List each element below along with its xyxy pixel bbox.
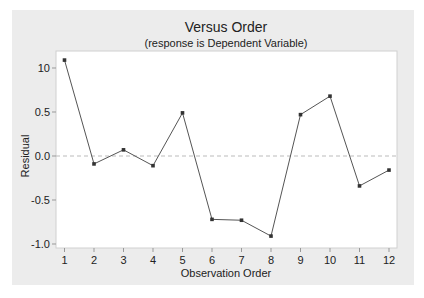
x-axis-ticks: 123456789101112 [61, 248, 395, 266]
data-point-marker [387, 168, 391, 172]
y-axis-label: Residual [19, 135, 31, 178]
data-point-marker [92, 162, 96, 166]
x-tick-label: 11 [354, 254, 365, 266]
y-tick-label: -0.5 [31, 194, 50, 206]
residual-vs-order-chart: Versus Order (response is Dependent Vari… [0, 0, 424, 298]
x-tick-label: 12 [383, 254, 395, 266]
x-axis-label: Observation Order [181, 267, 272, 279]
data-point-marker [269, 234, 273, 238]
data-point-marker [299, 113, 303, 117]
data-point-marker [63, 58, 67, 62]
data-point-marker [358, 184, 362, 188]
x-tick-label: 8 [268, 254, 274, 266]
y-tick-label: 10 [38, 62, 50, 74]
data-point-marker [210, 218, 214, 222]
x-tick-label: 5 [179, 254, 185, 266]
x-tick-label: 4 [150, 254, 156, 266]
x-tick-label: 1 [61, 254, 67, 266]
data-point-marker [181, 111, 185, 115]
y-axis-ticks: 100.50.0-0.5-1.0 [31, 62, 56, 250]
x-tick-label: 10 [324, 254, 336, 266]
y-tick-label: 0.5 [35, 106, 50, 118]
x-tick-label: 2 [91, 254, 97, 266]
data-point-marker [151, 164, 155, 168]
x-tick-label: 7 [238, 254, 244, 266]
x-tick-label: 3 [120, 254, 126, 266]
data-point-marker [122, 148, 126, 152]
y-tick-label: 0.0 [35, 150, 50, 162]
chart-subtitle: (response is Dependent Variable) [144, 37, 307, 49]
plot-area [56, 51, 397, 248]
chart-title: Versus Order [185, 19, 268, 35]
data-point-marker [240, 218, 244, 222]
data-point-marker [328, 94, 332, 98]
y-tick-label: -1.0 [31, 238, 50, 250]
x-tick-label: 6 [209, 254, 215, 266]
x-tick-label: 9 [297, 254, 303, 266]
